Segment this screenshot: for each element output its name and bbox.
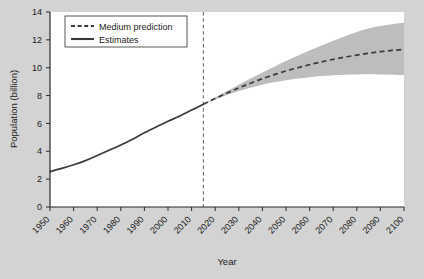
y-tick-label-10: 10 <box>32 63 42 73</box>
y-tick-label-6: 6 <box>37 119 42 129</box>
y-tick-label-4: 4 <box>37 146 42 156</box>
legend-label-estimates: Estimates <box>99 35 139 45</box>
y-tick-label-2: 2 <box>37 174 42 184</box>
y-tick-label-8: 8 <box>37 91 42 101</box>
legend-label-medium-prediction: Medium prediction <box>99 22 173 32</box>
y-tick-label-0: 0 <box>37 202 42 212</box>
y-tick-label-12: 12 <box>32 35 42 45</box>
x-axis-title: Year <box>217 256 236 267</box>
y-axis-title: Population (billion) <box>8 70 19 148</box>
population-projection-chart: 02468101214 Population (billion) 1950196… <box>0 0 424 279</box>
chart-svg: 02468101214 Population (billion) 1950196… <box>0 0 424 279</box>
y-tick-label-14: 14 <box>32 7 42 17</box>
legend: Medium prediction Estimates <box>65 16 187 47</box>
